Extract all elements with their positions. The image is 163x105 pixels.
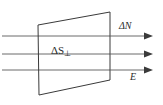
arrowhead-bottom-icon [144, 67, 153, 74]
flux-count-label: ΔN [119, 21, 132, 31]
field-direction-label: E [130, 72, 136, 82]
area-label-subscript: ⊥ [64, 49, 71, 58]
area-element-parallelogram [38, 12, 110, 95]
arrowhead-top-icon [144, 33, 153, 40]
area-element-label: ΔS⊥ [51, 45, 71, 58]
area-label-symbol: ΔS [51, 44, 64, 56]
arrowhead-middle-icon [144, 51, 153, 58]
outgoing-arrow-group [110, 33, 153, 74]
figure-container: ΔS⊥ ΔN E [0, 0, 163, 105]
flux-diagram-svg [0, 0, 163, 105]
